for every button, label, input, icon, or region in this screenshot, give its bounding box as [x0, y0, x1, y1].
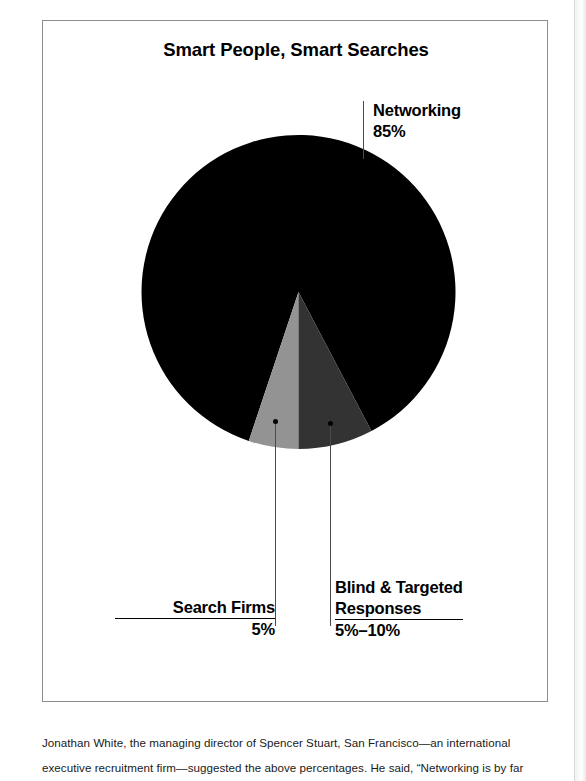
callout-networking: Networking 85%	[373, 100, 461, 142]
callout-blind-targeted: Blind & Targeted Responses 5%–10%	[335, 577, 463, 641]
leader-line-search-firms	[275, 422, 276, 626]
pie-slice-blind-targeted	[299, 292, 372, 449]
caption-line-2: executive recruitment firm—suggested the…	[42, 755, 542, 780]
leader-line-networking	[363, 101, 364, 159]
callout-search-firms-label: Search Firms	[115, 597, 275, 619]
callout-blind-targeted-percent: 5%–10%	[335, 620, 463, 641]
pie-slice-networking	[142, 135, 456, 441]
leader-dot-search-firms	[273, 419, 278, 424]
leader-dot-blind-targeted	[328, 421, 333, 426]
figure-caption: Jonathan White, the managing director of…	[42, 730, 542, 780]
callout-blind-targeted-label-line2: Responses	[335, 598, 463, 620]
figure-panel: Smart People, Smart Searches Networking …	[42, 20, 548, 702]
caption-line-1: Jonathan White, the managing director of…	[42, 730, 542, 755]
page-edge-shadow	[575, 0, 586, 781]
callout-blind-targeted-label-line1: Blind & Targeted	[335, 577, 463, 598]
page-title: Smart People, Smart Searches	[43, 39, 549, 61]
callout-networking-percent: 85%	[373, 121, 461, 142]
callout-networking-label: Networking	[373, 101, 461, 119]
callout-search-firms-percent: 5%	[115, 619, 275, 640]
leader-line-blind-targeted	[330, 424, 331, 626]
callout-search-firms: Search Firms 5%	[115, 597, 275, 640]
